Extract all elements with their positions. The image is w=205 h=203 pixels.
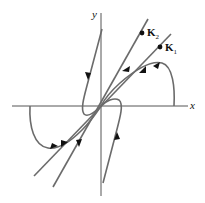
arrow-icon <box>122 66 130 72</box>
phase-portrait-svg <box>0 0 205 203</box>
k1-label-sub: 1 <box>174 48 178 56</box>
k1-label: K1 <box>165 41 177 56</box>
k2-label: K2 <box>147 26 159 41</box>
y-axis-label: y <box>92 8 97 20</box>
k2-label-name: K <box>147 26 156 38</box>
k1-point <box>158 45 163 50</box>
k2-point <box>140 31 145 36</box>
phase-portrait-diagram: y x K2 K1 <box>0 0 205 203</box>
k1-label-name: K <box>165 41 174 53</box>
x-axis-label: x <box>190 99 195 111</box>
k2-label-sub: 2 <box>156 33 160 41</box>
trajectory-bottom <box>101 99 121 183</box>
